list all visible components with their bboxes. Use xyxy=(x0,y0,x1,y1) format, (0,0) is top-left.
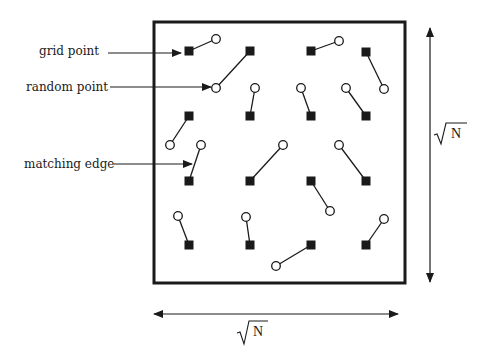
grid-point xyxy=(362,241,371,250)
horizontal-side-length-label: N xyxy=(253,324,263,340)
grid-point xyxy=(246,47,255,56)
grid-point xyxy=(362,48,371,57)
grid-point xyxy=(185,112,194,121)
grid-point xyxy=(307,47,316,56)
random-point xyxy=(212,84,221,93)
grid-point xyxy=(307,177,316,186)
matching-edge xyxy=(276,245,311,266)
random-point xyxy=(166,141,175,150)
matching-edge-label: matching edge xyxy=(24,157,114,171)
random-point xyxy=(380,85,389,94)
matching-edge xyxy=(339,145,366,181)
random-point xyxy=(380,215,389,224)
random-point xyxy=(251,84,260,93)
vertical-side-length-label: N xyxy=(451,126,461,142)
grid-point xyxy=(246,177,255,186)
random-point xyxy=(342,84,351,93)
matching-edge xyxy=(366,52,384,89)
matching-edges-layer xyxy=(170,39,384,266)
matching-edge xyxy=(216,51,250,88)
random-point xyxy=(335,37,344,46)
grid-point xyxy=(185,241,194,250)
grid-point-label: grid point xyxy=(39,44,99,58)
grid-point xyxy=(246,241,255,250)
random-point xyxy=(197,141,206,150)
grid-point xyxy=(185,47,194,56)
grid-point xyxy=(362,177,371,186)
matching-edge xyxy=(189,145,201,181)
random-point xyxy=(174,212,183,221)
random-point xyxy=(212,35,221,44)
random-point xyxy=(297,84,306,93)
random-point xyxy=(335,141,344,150)
grid-point xyxy=(185,177,194,186)
matching-edge xyxy=(250,145,283,181)
grid-point xyxy=(362,112,371,121)
random-point xyxy=(326,207,335,216)
grid-point xyxy=(246,112,255,121)
random-point-label: random point xyxy=(26,80,108,94)
grid-point xyxy=(307,241,316,250)
random-point xyxy=(242,213,251,222)
grid-point xyxy=(307,112,316,121)
random-point xyxy=(272,262,281,271)
random-point xyxy=(279,141,288,150)
